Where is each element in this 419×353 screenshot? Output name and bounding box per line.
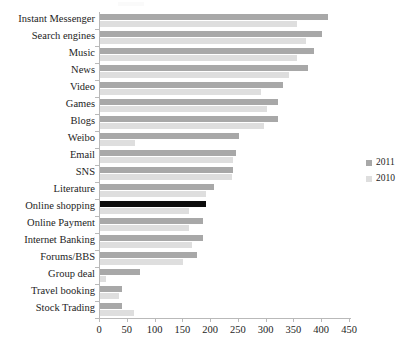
x-tick	[210, 318, 211, 322]
category-label: Stock Trading	[36, 303, 95, 313]
legend-swatch-2011	[366, 160, 372, 166]
bar-2011	[100, 167, 233, 173]
bar-2010	[100, 38, 306, 44]
x-tick	[293, 318, 294, 322]
category-label: Travel booking	[31, 286, 95, 296]
x-tick	[155, 318, 156, 322]
bar-row: Literature	[0, 182, 419, 199]
x-axis-line	[99, 318, 351, 319]
bar-row: Search engines	[0, 29, 419, 46]
bar-2010	[100, 174, 232, 180]
bar-row: Group deal	[0, 267, 419, 284]
category-label: Email	[70, 150, 95, 160]
x-tick	[266, 318, 267, 322]
bar-chart: Instant MessengerSearch enginesMusicNews…	[0, 0, 419, 353]
bar-row: SNS	[0, 165, 419, 182]
bar-2010	[100, 225, 189, 231]
bar-2010	[100, 259, 183, 265]
bar-2010	[100, 242, 192, 248]
bar-2010	[100, 89, 261, 95]
category-label: Blogs	[70, 116, 95, 126]
bar-row: Video	[0, 80, 419, 97]
bar-2011	[100, 133, 239, 139]
bar-2011	[100, 150, 236, 156]
bar-2011	[100, 252, 197, 258]
bar-2011	[100, 184, 214, 190]
bar-row: Music	[0, 46, 419, 63]
legend-swatch-2010	[366, 176, 372, 182]
category-label: Online shopping	[25, 201, 95, 211]
category-label: Internet Banking	[24, 235, 95, 245]
x-tick	[238, 318, 239, 322]
legend-item-2010: 2010	[366, 174, 395, 183]
crop-artifact	[118, 2, 144, 6]
x-tick	[349, 318, 350, 322]
bar-2011	[100, 82, 283, 88]
bar-row: Stock Trading	[0, 301, 419, 318]
bar-2011	[100, 201, 206, 207]
x-tick	[182, 318, 183, 322]
bar-2010	[100, 55, 297, 61]
bar-row: Forums/BBS	[0, 250, 419, 267]
bar-row: Internet Banking	[0, 233, 419, 250]
bar-2011	[100, 65, 308, 71]
bar-row: Email	[0, 148, 419, 165]
category-label: SNS	[76, 167, 95, 177]
bar-2010	[100, 123, 264, 129]
bar-2011	[100, 48, 314, 54]
x-tick-label: 450	[329, 324, 369, 335]
bar-2011	[100, 286, 122, 292]
bar-2011	[100, 31, 322, 37]
bar-2011	[100, 99, 278, 105]
x-tick	[127, 318, 128, 322]
category-label: Search engines	[32, 31, 95, 41]
bar-2011	[100, 269, 140, 275]
bar-row: Instant Messenger	[0, 12, 419, 29]
category-label: Online Payment	[27, 218, 95, 228]
bar-2010	[100, 157, 233, 163]
bar-2010	[100, 276, 106, 282]
category-label: Literature	[54, 184, 95, 194]
bar-2010	[100, 293, 119, 299]
bar-2010	[100, 310, 134, 316]
bar-2010	[100, 106, 267, 112]
category-label: News	[71, 65, 95, 75]
bar-2011	[100, 218, 203, 224]
bar-2010	[100, 72, 289, 78]
category-label: Group deal	[48, 269, 95, 279]
x-tick	[99, 318, 100, 322]
x-tick	[321, 318, 322, 322]
bar-row: Games	[0, 97, 419, 114]
legend-item-2011: 2011	[366, 158, 395, 167]
bar-row: News	[0, 63, 419, 80]
bar-2010	[100, 140, 135, 146]
bar-2011	[100, 303, 122, 309]
category-label: Instant Messenger	[18, 14, 95, 24]
bar-2011	[100, 14, 328, 20]
category-label: Music	[69, 48, 95, 58]
legend-label-2010: 2010	[376, 174, 395, 183]
bar-2010	[100, 191, 206, 197]
bar-row: Blogs	[0, 114, 419, 131]
bar-row: Online Payment	[0, 216, 419, 233]
bar-2011	[100, 116, 278, 122]
category-label: Weibo	[68, 133, 95, 143]
bar-2010	[100, 208, 189, 214]
bar-row: Travel booking	[0, 284, 419, 301]
category-label: Video	[70, 82, 95, 92]
bar-2010	[100, 21, 297, 27]
legend-label-2011: 2011	[376, 158, 395, 167]
chart-legend: 2011 2010	[366, 158, 395, 190]
bar-2011	[100, 235, 203, 241]
category-label: Games	[66, 99, 95, 109]
bar-row: Online shopping	[0, 199, 419, 216]
category-label: Forums/BBS	[40, 252, 95, 262]
bar-row: Weibo	[0, 131, 419, 148]
